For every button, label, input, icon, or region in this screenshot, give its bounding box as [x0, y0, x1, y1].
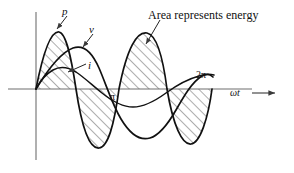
- waveform-plot: [0, 0, 294, 173]
- hatched-energy-areas: [30, 20, 220, 155]
- leader-p: [57, 16, 67, 29]
- curve-label-v: v: [89, 24, 94, 35]
- hatch-positive-lobe-2: [113, 20, 175, 100]
- curve-label-i: i: [88, 60, 91, 71]
- curve-label-p: p: [62, 6, 68, 17]
- x-tick-label-2pi: 2π: [196, 70, 206, 80]
- leader-v: [83, 34, 93, 47]
- x-axis-label: ωt: [230, 88, 240, 98]
- energy-annotation-label: Area represents energy: [148, 9, 258, 21]
- x-tick-label-pi: π: [110, 92, 115, 102]
- power-waveform-figure: p v i π 2π ωt Area represents energy: [0, 0, 294, 173]
